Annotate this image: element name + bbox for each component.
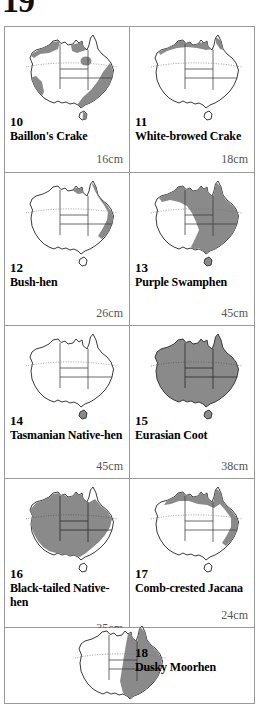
entry-name: Baillon's Crake (10, 130, 125, 144)
entry-number: 16 (10, 567, 125, 581)
species-cell-11[interactable]: 11 White-browed Crake 18cm (130, 27, 255, 173)
australia-range-map-15 (130, 329, 254, 421)
entry-name: Dusky Moorhen (135, 661, 250, 675)
species-caption: 13 Purple Swamphen 45cm (135, 261, 250, 290)
species-cell-15[interactable]: 15 Eurasian Coot 38cm (130, 326, 255, 479)
entry-size: 24cm (221, 609, 248, 622)
species-cell-14[interactable]: 14 Tasmanian Native-hen 45cm (5, 326, 130, 479)
entry-name: Comb-crested Jacana (135, 582, 250, 596)
map-svg (12, 176, 122, 268)
australia-range-map-10 (5, 30, 129, 122)
species-caption: 18 Dusky Moorhen (135, 646, 250, 675)
entry-size: 16cm (96, 153, 123, 166)
entry-name: White-browed Crake (135, 130, 250, 144)
species-caption: 17 Comb-crested Jacana 24cm (135, 567, 250, 596)
table-row: 18 Dusky Moorhen (5, 628, 255, 704)
entry-size: 18cm (221, 153, 248, 166)
page-heading: 19 (2, 0, 34, 14)
species-caption: 11 White-browed Crake 18cm (135, 115, 250, 144)
australia-range-map-17 (130, 482, 254, 574)
species-cell-12[interactable]: 12 Bush-hen 26cm (5, 173, 130, 326)
species-caption: 16 Black-tailed Native-hen 35cm (10, 567, 125, 609)
map-svg (137, 176, 247, 268)
species-cell-18[interactable]: 18 Dusky Moorhen (5, 628, 255, 704)
entry-number: 12 (10, 261, 125, 275)
species-caption: 15 Eurasian Coot 38cm (135, 414, 250, 443)
species-caption: 10 Baillon's Crake 16cm (10, 115, 125, 144)
table-row: 10 Baillon's Crake 16cm (5, 27, 255, 173)
species-cell-16[interactable]: 16 Black-tailed Native-hen 35cm (5, 479, 130, 628)
australia-range-map-12 (5, 176, 129, 268)
entry-number: 10 (10, 115, 125, 129)
table-row: 12 Bush-hen 26cm (5, 173, 255, 326)
australia-range-map-14 (5, 329, 129, 421)
entry-size: 45cm (221, 307, 248, 320)
entry-number: 14 (10, 414, 125, 428)
australia-range-map-11 (130, 30, 254, 122)
entry-number: 15 (135, 414, 250, 428)
entry-name: Purple Swamphen (135, 276, 250, 290)
map-svg (137, 30, 247, 122)
map-svg (12, 30, 122, 122)
map-svg (137, 482, 247, 574)
entry-number: 13 (135, 261, 250, 275)
species-cell-13[interactable]: 13 Purple Swamphen 45cm (130, 173, 255, 326)
entry-name: Black-tailed Native-hen (10, 582, 125, 609)
entry-size: 38cm (221, 460, 248, 473)
entry-number: 17 (135, 567, 250, 581)
map-svg (12, 482, 122, 574)
australia-range-map-13 (130, 176, 254, 268)
entry-number: 18 (135, 646, 250, 660)
map-svg (137, 329, 247, 421)
species-caption: 14 Tasmanian Native-hen 45cm (10, 414, 125, 443)
entry-name: Bush-hen (10, 276, 125, 290)
species-grid: 10 Baillon's Crake 16cm (4, 26, 255, 704)
species-cell-17[interactable]: 17 Comb-crested Jacana 24cm (130, 479, 255, 628)
entry-size: 45cm (96, 460, 123, 473)
map-svg (12, 329, 122, 421)
entry-size: 26cm (96, 307, 123, 320)
entry-number: 11 (135, 115, 250, 129)
entry-name: Tasmanian Native-hen (10, 429, 125, 443)
entry-name: Eurasian Coot (135, 429, 250, 443)
species-cell-10[interactable]: 10 Baillon's Crake 16cm (5, 27, 130, 173)
species-caption: 12 Bush-hen 26cm (10, 261, 125, 290)
table-row: 14 Tasmanian Native-hen 45cm (5, 326, 255, 479)
table-row: 16 Black-tailed Native-hen 35cm (5, 479, 255, 628)
australia-range-map-16 (5, 482, 129, 574)
